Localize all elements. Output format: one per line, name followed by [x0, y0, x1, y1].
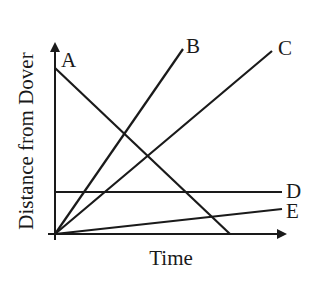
- line-a: [55, 68, 230, 234]
- x-axis-label: Time: [149, 246, 193, 270]
- line-e: [55, 209, 282, 234]
- label-e: E: [286, 199, 299, 223]
- distance-time-chart: A B C D E Time Distance from Dover: [0, 0, 317, 289]
- label-a: A: [61, 48, 77, 72]
- label-b: B: [186, 34, 200, 58]
- y-axis-label: Distance from Dover: [14, 52, 38, 229]
- label-c: C: [278, 36, 292, 60]
